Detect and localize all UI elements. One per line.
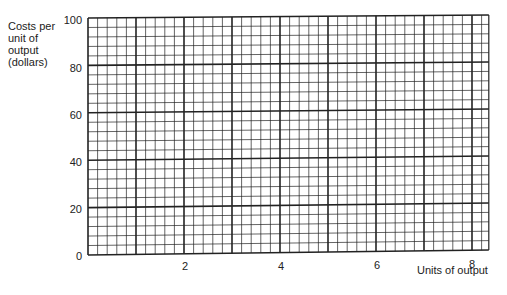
grid-plot-area xyxy=(0,0,507,295)
graph-paper-grid xyxy=(88,15,489,255)
